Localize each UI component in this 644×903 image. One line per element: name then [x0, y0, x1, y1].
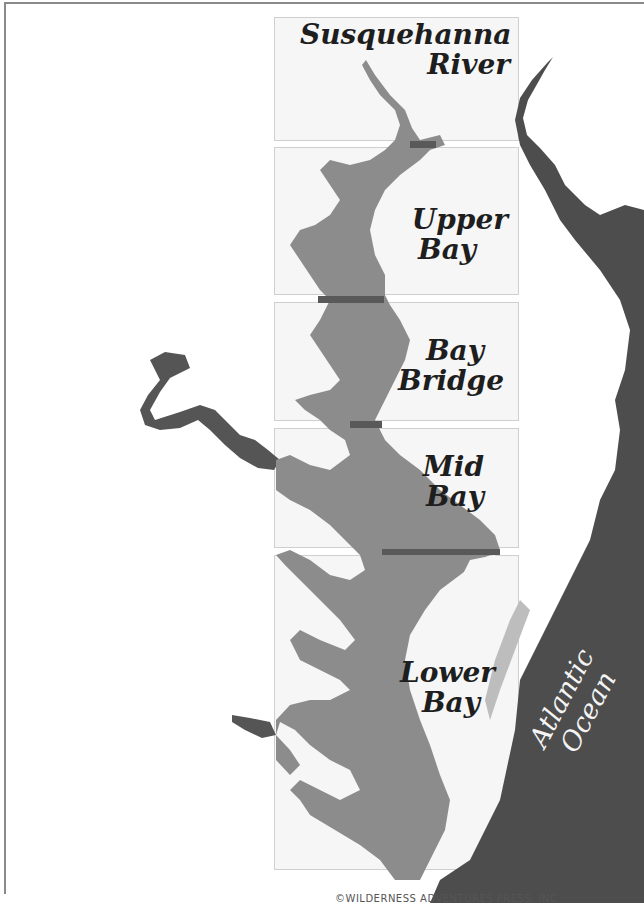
divider-baybridge-mid	[350, 421, 382, 428]
region-label-susquehanna-river: Susquehanna River	[300, 20, 510, 80]
region-label-bay-bridge: Bay Bridge	[380, 336, 504, 396]
james-river-upper	[232, 715, 276, 738]
divider-susquehanna-upper	[410, 141, 436, 148]
potomac-river	[140, 352, 280, 470]
region-label-mid-bay: Mid Bay	[400, 452, 484, 512]
region-label-upper-bay: Upper Bay	[380, 205, 508, 265]
divider-upper-baybridge	[318, 296, 384, 303]
divider-mid-lower	[382, 549, 500, 555]
copyright-notice: ©WILDERNESS ADVENTURES PRESS, INC	[335, 893, 558, 903]
region-label-lower-bay: Lower Bay	[400, 658, 494, 718]
